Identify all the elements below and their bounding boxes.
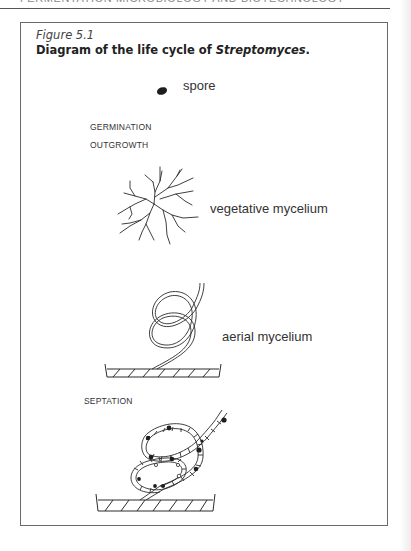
aerial-mycelium-icon [149,283,204,369]
spore-icon [156,86,168,96]
vegetative-mycelium-icon [118,167,198,244]
substrate-dish-lower-icon [96,494,215,511]
life-cycle-artwork [0,0,411,551]
spore-chain-hollow-icon [154,463,180,477]
septated-hypha-icon [131,410,227,500]
